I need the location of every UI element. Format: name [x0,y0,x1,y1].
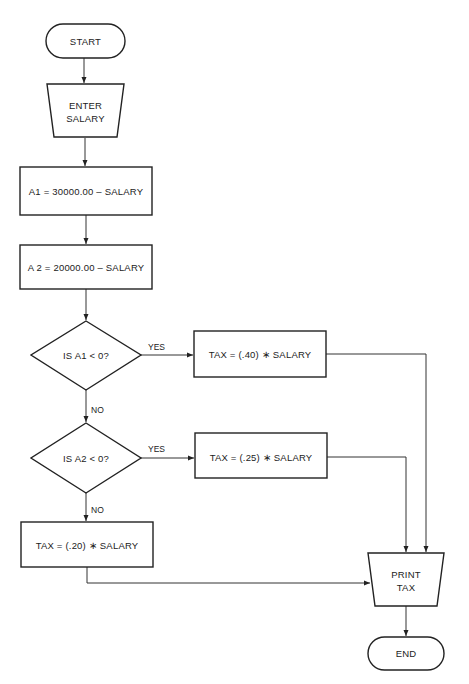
node-start: START [46,24,125,58]
node-decision-a1: IS A1 < 0? [31,321,141,390]
node-label: IS A2 < 0? [63,453,109,464]
edge-tax25-to-print [327,457,406,552]
node-label: A 2 = 20000.00 – SALARY [28,262,145,273]
node-calc-a1: A1 = 30000.00 – SALARY [20,167,152,215]
node-label-line2: SALARY [66,113,105,124]
node-label: END [396,648,417,659]
node-label: START [70,36,101,47]
node-tax-25: TAX = (.25) ∗ SALARY [195,433,327,478]
node-label: TAX = (.20) ∗ SALARY [36,540,139,551]
edge-tax40-to-print [326,354,426,552]
node-label: IS A1 < 0? [63,350,109,361]
node-calc-a2: A 2 = 20000.00 – SALARY [20,245,152,289]
node-label: TAX = (.25) ∗ SALARY [210,452,313,463]
node-label: A1 = 30000.00 – SALARY [29,186,144,197]
node-decision-a2: IS A2 < 0? [31,423,141,493]
edge-label-d2-no: NO [91,505,104,515]
edge-label-d2-yes: YES [148,444,165,454]
edge-tax20-to-print [87,567,370,583]
edge-label-d1-yes: YES [148,342,165,352]
node-enter-salary: ENTER SALARY [47,84,124,137]
flowchart-canvas: YES NO YES NO START ENTER SALARY A1 = 30… [0,0,469,684]
node-label-line1: PRINT [391,569,421,580]
edge-label-d1-no: NO [91,405,104,415]
node-tax-20: TAX = (.20) ∗ SALARY [21,522,153,567]
node-label-line1: ENTER [69,100,102,111]
node-print-tax: PRINT TAX [368,553,444,606]
node-label: TAX = (.40) ∗ SALARY [209,349,312,360]
node-tax-40: TAX = (.40) ∗ SALARY [194,331,326,377]
node-label-line2: TAX [397,582,416,593]
node-end: END [368,637,444,670]
